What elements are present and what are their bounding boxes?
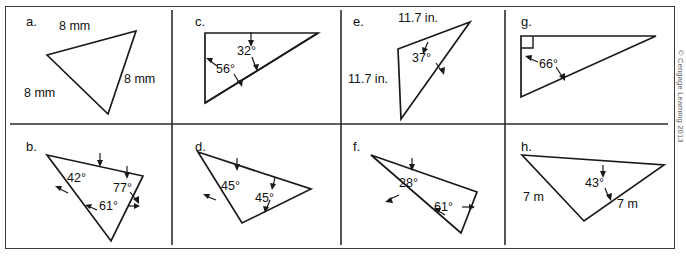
triangle-b xyxy=(47,155,143,241)
side-label-h-right: 7 m xyxy=(617,197,638,211)
triangle-d xyxy=(198,152,311,223)
panel-label-h: h. xyxy=(521,139,532,154)
pointer-arrow-d-45a xyxy=(234,164,240,171)
side-label-h-left: 7 m xyxy=(523,190,544,204)
panel-label-b: b. xyxy=(26,139,37,154)
copyright-notice: © Cengage Learning 2013 xyxy=(676,50,685,150)
triangle-f xyxy=(371,155,477,233)
pointer-arrow-d-45c xyxy=(270,183,276,190)
panel-label-f: f. xyxy=(353,139,360,154)
angle-label-f-28: 28° xyxy=(399,176,418,190)
angle-label-c-56: 56° xyxy=(216,62,235,76)
angle-label-b-61: 61° xyxy=(99,199,118,213)
angle-label-d-45-left: 45° xyxy=(221,179,240,193)
triangles-diagram: a. 8 mm 8 mm 8 mm c. 32° 56° e. 11.7 in.… xyxy=(0,0,686,260)
side-label-e-left: 11.7 in. xyxy=(348,72,388,86)
pointer-arrow-b-61b xyxy=(134,203,140,209)
angle-label-b-77: 77° xyxy=(113,181,132,195)
triangle-a xyxy=(47,31,136,114)
panel-label-e: e. xyxy=(353,14,364,29)
panel-label-c: c. xyxy=(195,14,205,29)
panel-label-a: a. xyxy=(26,14,37,29)
panel-label-d: d. xyxy=(195,139,206,154)
pointer-arrow-g-66a xyxy=(525,55,532,61)
angle-label-h-43: 43° xyxy=(585,176,604,190)
angle-label-g-66: 66° xyxy=(539,57,558,71)
side-label-a-left: 8 mm xyxy=(24,86,55,100)
angle-label-d-45-right: 45° xyxy=(255,191,274,205)
triangle-e xyxy=(398,22,470,119)
panel-label-g: g. xyxy=(521,14,532,29)
side-label-a-top: 8 mm xyxy=(59,19,90,33)
angle-label-b-42: 42° xyxy=(67,171,86,185)
angle-label-f-61: 61° xyxy=(434,200,453,214)
side-label-a-right: 8 mm xyxy=(124,72,155,86)
pointer-arrow-d-45b xyxy=(203,194,210,199)
pointer-arrow-b-42b xyxy=(55,186,62,191)
pointer-arrow-b-77a xyxy=(124,172,130,179)
angle-label-c-32: 32° xyxy=(237,44,256,58)
side-label-e-top: 11.7 in. xyxy=(398,11,438,25)
angle-label-e-37: 37° xyxy=(412,51,431,65)
right-angle-marker-g xyxy=(521,36,533,48)
figure-root: a. 8 mm 8 mm 8 mm c. 32° 56° e. 11.7 in.… xyxy=(0,0,686,260)
